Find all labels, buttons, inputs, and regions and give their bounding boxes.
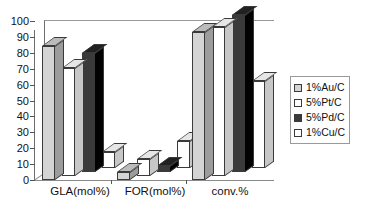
y-axis-tick xyxy=(30,180,35,181)
legend-item-5-pt-c[interactable]: 5%Pt/C xyxy=(294,95,345,110)
legend-swatch-icon xyxy=(294,99,302,107)
y-axis-tick xyxy=(30,148,35,149)
y-axis-tick-label: 90 xyxy=(17,31,29,42)
y-axis-tick xyxy=(30,37,35,38)
legend-swatch-icon xyxy=(294,129,302,137)
y-axis-tick xyxy=(30,53,35,54)
x-axis-line xyxy=(34,180,274,181)
legend-item-label: 5%Pt/C xyxy=(306,97,342,108)
y-axis-tick-label: 0 xyxy=(23,175,29,186)
bar-1-au-c-formol xyxy=(117,172,130,180)
y-axis-tick-label: 80 xyxy=(17,47,29,58)
x-axis-tick xyxy=(186,180,187,184)
y-axis-tick xyxy=(30,69,35,70)
y-axis-tick-label: 30 xyxy=(17,127,29,138)
y-axis-tick-label: 60 xyxy=(17,79,29,90)
bar-side-face xyxy=(265,74,274,168)
bar-front-face xyxy=(192,32,205,180)
y-axis-tick-label: 10 xyxy=(17,159,29,170)
bar-front-face xyxy=(117,172,130,180)
bar-side-face xyxy=(225,20,234,176)
y-axis-tick-label: 70 xyxy=(17,63,29,74)
bar-side-face xyxy=(245,8,254,172)
bar-chart: 1009080706050403020100 GLA(mol%)FOR(mol%… xyxy=(0,0,367,216)
y-axis-tick-label: 20 xyxy=(17,143,29,154)
y-axis-tick xyxy=(30,85,35,86)
y-axis-tick xyxy=(30,21,35,22)
y-axis-tick-label: 40 xyxy=(17,111,29,122)
y-axis-tick-label: 100 xyxy=(11,16,29,27)
y-axis-tick xyxy=(30,132,35,133)
bar-1-au-c-conv xyxy=(192,32,205,180)
bar-front-face xyxy=(42,46,55,180)
chart-legend: 1%Au/C5%Pt/C5%Pd/C1%Cu/C xyxy=(290,76,350,144)
bar-side-face xyxy=(205,26,214,180)
legend-item-1-au-c[interactable]: 1%Au/C xyxy=(294,80,345,95)
legend-item-label: 1%Au/C xyxy=(306,82,345,93)
legend-swatch-icon xyxy=(294,84,302,92)
x-axis-tick xyxy=(111,180,112,184)
legend-item-label: 1%Cu/C xyxy=(306,127,345,138)
y-axis-tick xyxy=(30,116,35,117)
legend-item-5-pd-c[interactable]: 5%Pd/C xyxy=(294,110,345,125)
bar-side-face xyxy=(95,46,104,172)
y-axis-tick-label: 50 xyxy=(17,95,29,106)
y-axis-tick xyxy=(30,101,35,102)
x-axis-label-conv: conv.% xyxy=(185,185,275,197)
bar-1-au-c-glamol xyxy=(42,46,55,180)
y-axis-tick xyxy=(30,164,35,165)
legend-item-label: 5%Pd/C xyxy=(306,112,345,123)
bar-side-face xyxy=(55,40,64,180)
bar-side-face xyxy=(75,61,84,176)
legend-item-1-cu-c[interactable]: 1%Cu/C xyxy=(294,125,345,140)
plot-area: 1009080706050403020100 xyxy=(34,20,274,181)
legend-swatch-icon xyxy=(294,114,302,122)
